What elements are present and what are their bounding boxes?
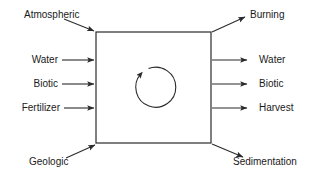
label-output-biotic: Biotic [259, 78, 283, 89]
label-input-biotic: Biotic [0, 78, 58, 89]
label-output-sedimentation: Sedimentation [233, 156, 297, 167]
arrow-input-atmospheric [64, 19, 94, 31]
label-output-harvest: Harvest [259, 102, 293, 113]
label-output-burning: Burning [250, 9, 284, 20]
label-output-water: Water [259, 54, 285, 65]
arrow-output-burning [212, 17, 245, 32]
arrow-input-geologic [66, 145, 95, 158]
internal-cycling-arrow [136, 67, 176, 107]
flow-diagram-canvas [0, 0, 313, 178]
label-input-water: Water [0, 54, 58, 65]
central-box [96, 32, 211, 143]
label-input-geologic: Geologic [29, 156, 68, 167]
label-input-atmospheric: Atmospheric [24, 9, 80, 20]
flow-diagram: Atmospheric Water Biotic Fertilizer Geol… [0, 0, 313, 178]
label-input-fertilizer: Fertilizer [0, 102, 60, 113]
